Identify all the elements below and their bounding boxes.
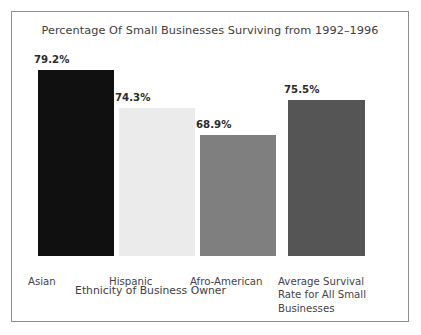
bar-value-label: 74.3% — [115, 92, 150, 103]
bar-rect[interactable] — [288, 100, 365, 256]
x-axis-title: Ethnicity of Business Owner — [28, 284, 273, 297]
bar-rect[interactable] — [119, 108, 195, 256]
bar-value-label: 79.2% — [34, 54, 69, 65]
bar-value-label: 75.5% — [284, 84, 319, 95]
chart-frame: Percentage Of Small Businesses Surviving… — [11, 11, 409, 322]
plot-area: 79.2% Asian 74.3% Hispanic 68.9% Afro-Am… — [12, 12, 408, 321]
bar-value-label: 68.9% — [196, 119, 231, 130]
bar-rect[interactable] — [200, 135, 276, 256]
category-label-average: Average Survival Rate for All Small Busi… — [278, 274, 374, 315]
bar-rect[interactable] — [38, 70, 114, 256]
